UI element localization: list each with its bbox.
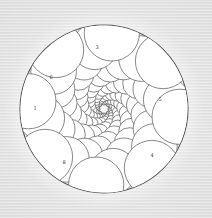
- diagram-canvas: 365148: [0, 0, 212, 218]
- circle-label: 4: [150, 153, 153, 158]
- circle-label: 1: [33, 106, 36, 111]
- circle-label: 3: [95, 45, 98, 50]
- circle-label: 5: [158, 97, 161, 102]
- circle-label: 6: [49, 75, 52, 80]
- packed-circle: [84, 6, 139, 61]
- packed-circle: [1, 74, 56, 129]
- circle-packing-figure: [0, 0, 212, 218]
- circle-label: 8: [62, 160, 65, 165]
- packed-circle: [135, 34, 190, 89]
- packed-circle: [17, 129, 72, 184]
- packed-circle: [69, 157, 124, 212]
- packed-circle: [28, 22, 83, 77]
- packed-circle: [124, 140, 179, 195]
